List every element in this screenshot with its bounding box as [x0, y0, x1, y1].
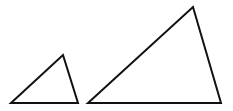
large-triangle [88, 7, 221, 103]
triangles-diagram [0, 0, 233, 111]
small-triangle [11, 55, 78, 103]
